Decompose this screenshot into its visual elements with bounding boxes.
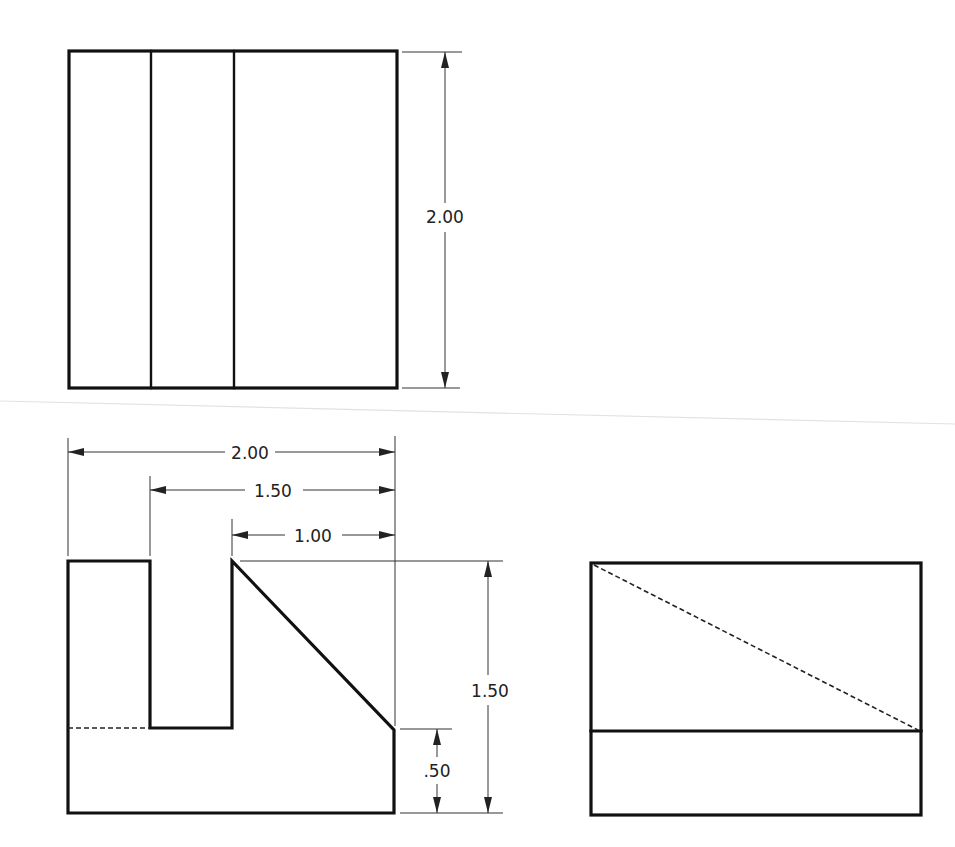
dim-front-slot-right: 1.50 (150, 481, 395, 501)
dim-text-front-slot-right: 1.50 (254, 481, 292, 501)
right-side-view (591, 563, 921, 815)
scan-fold-line (0, 401, 955, 424)
right-view-hidden-chamfer (594, 565, 918, 730)
dim-text-top-depth: 2.00 (426, 207, 464, 227)
dim-text-front-chamfer-width: 1.00 (294, 526, 332, 546)
arrow-up-icon (433, 729, 441, 745)
arrow-right-icon (379, 448, 395, 456)
orthographic-drawing: 2.00 2.00 1.50 (0, 0, 955, 847)
dim-text-front-height: 1.50 (471, 681, 509, 701)
arrow-left-icon (68, 448, 84, 456)
arrow-down-icon (484, 797, 492, 813)
top-view: 2.00 (69, 51, 468, 388)
arrow-up-icon (441, 52, 449, 68)
dim-front-height: 1.50 (471, 561, 509, 813)
arrow-right-icon (379, 531, 395, 539)
arrow-right-icon (379, 486, 395, 494)
front-view-outline (68, 561, 394, 813)
dim-front-chamfer-width: 1.00 (232, 526, 395, 546)
arrow-up-icon (484, 561, 492, 577)
right-view-outline (591, 563, 921, 815)
dim-text-front-base-height: .50 (423, 761, 450, 781)
arrow-left-icon (150, 486, 166, 494)
arrow-left-icon (232, 531, 248, 539)
dim-top-depth: 2.00 (402, 52, 468, 388)
dim-front-base-height: .50 (423, 729, 450, 813)
arrow-down-icon (433, 797, 441, 813)
arrow-down-icon (441, 372, 449, 388)
front-view: 2.00 1.50 1.00 1.50 (68, 436, 509, 813)
dim-front-width: 2.00 (68, 443, 395, 463)
dim-text-front-width: 2.00 (231, 443, 269, 463)
